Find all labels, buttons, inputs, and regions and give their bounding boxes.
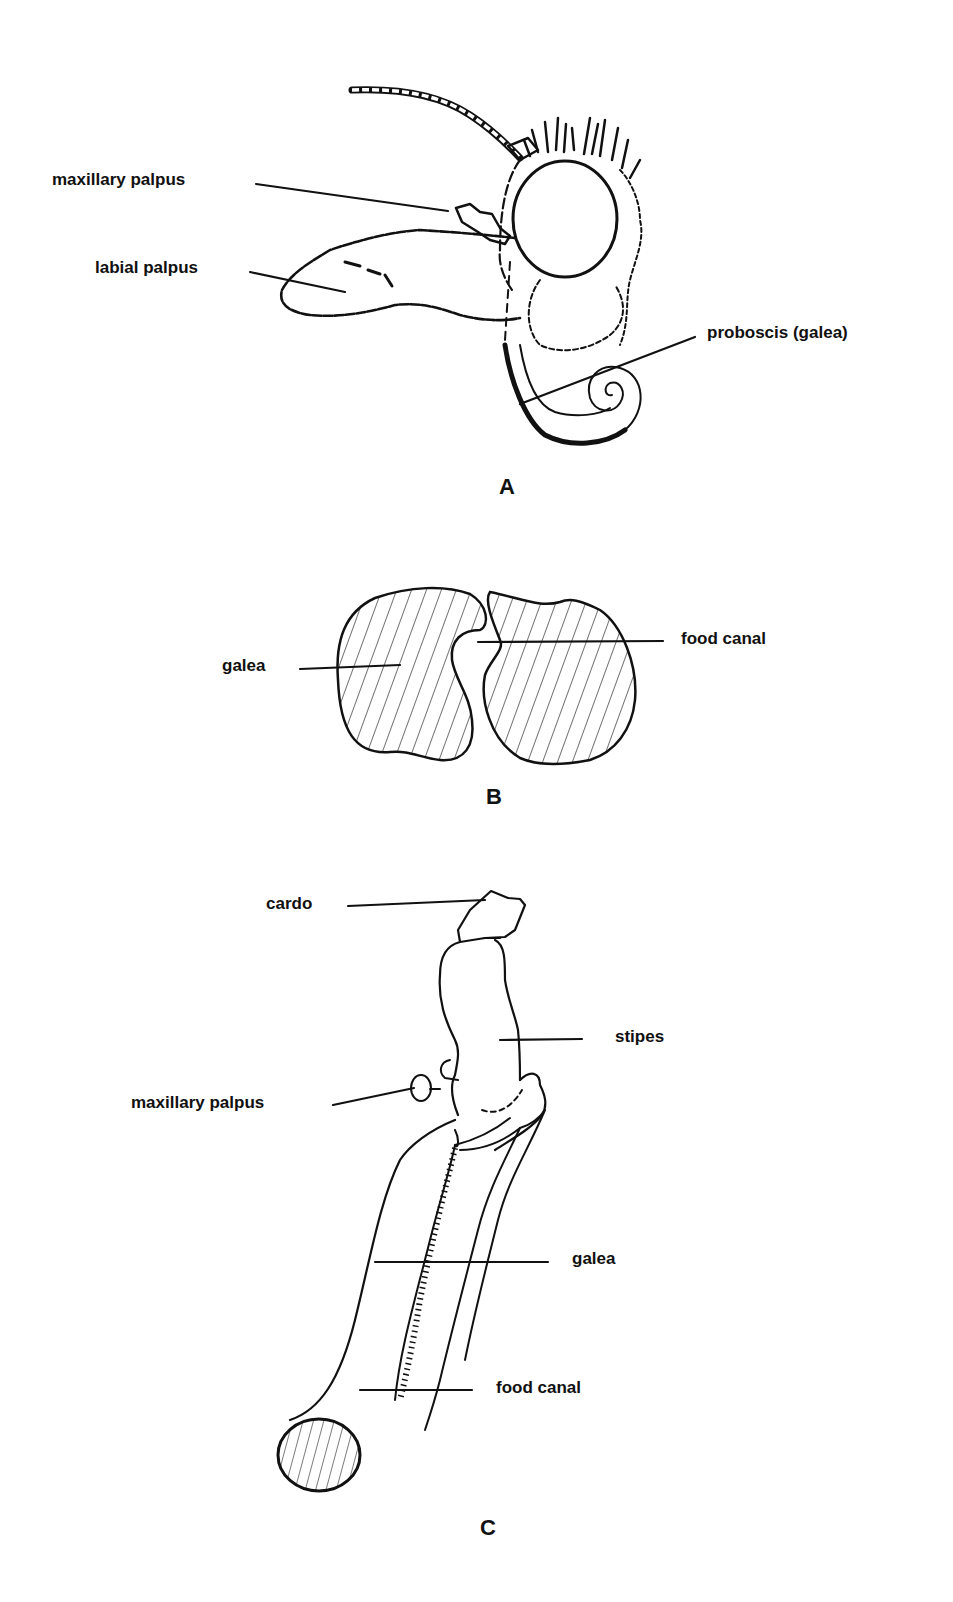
figure-drawing bbox=[0, 0, 953, 1602]
label-galea-c: galea bbox=[572, 1250, 615, 1267]
leader-food-canal-b bbox=[478, 641, 663, 642]
label-maxillary-palpus-a: maxillary palpus bbox=[52, 171, 185, 188]
leader-stipes bbox=[500, 1039, 582, 1040]
panel-letter-b: B bbox=[486, 786, 502, 808]
maxillary-palpus-a bbox=[456, 204, 510, 244]
cardo bbox=[458, 891, 525, 942]
panel-b-cross-section bbox=[300, 588, 663, 764]
label-food-canal-b: food canal bbox=[681, 630, 766, 647]
stipes bbox=[440, 940, 520, 1115]
label-galea-b: galea bbox=[222, 657, 265, 674]
label-labial-palpus: labial palpus bbox=[95, 259, 198, 276]
label-stipes: stipes bbox=[615, 1028, 664, 1045]
head-scales bbox=[524, 118, 640, 178]
leader-cardo bbox=[348, 900, 485, 906]
galea-cross-section-end bbox=[278, 1419, 360, 1491]
galea-right-half bbox=[484, 592, 636, 764]
labial-palpus bbox=[281, 230, 520, 320]
antenna bbox=[352, 90, 538, 160]
leader-maxillary-palpus-a bbox=[256, 184, 448, 211]
compound-eye bbox=[513, 161, 617, 277]
label-maxillary-palpus-c: maxillary palpus bbox=[131, 1094, 264, 1111]
panel-a-moth-head bbox=[250, 90, 695, 444]
label-proboscis: proboscis (galea) bbox=[707, 324, 848, 341]
galea-left-half bbox=[337, 588, 485, 760]
label-food-canal-c: food canal bbox=[496, 1379, 581, 1396]
panel-c-maxilla bbox=[278, 891, 582, 1491]
leader-labial-palpus bbox=[250, 272, 345, 292]
leader-maxillary-palpus-c bbox=[333, 1088, 414, 1105]
panel-letter-c: C bbox=[480, 1517, 496, 1539]
proboscis-coil bbox=[505, 345, 641, 443]
panel-letter-a: A bbox=[499, 476, 515, 498]
label-cardo: cardo bbox=[266, 895, 312, 912]
